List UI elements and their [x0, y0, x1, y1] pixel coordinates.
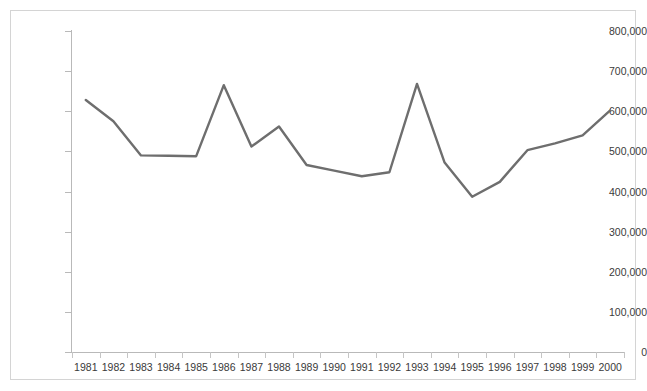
x-axis-tick	[265, 352, 266, 358]
x-axis-tick-label: 2000	[599, 362, 622, 373]
y-axis-tick	[65, 192, 72, 193]
y-axis-tick	[65, 151, 72, 152]
x-axis-tick-label: 1994	[433, 362, 456, 373]
x-axis-tick	[155, 352, 156, 358]
x-axis-tick-label: 1996	[488, 362, 511, 373]
x-axis-tick	[376, 352, 377, 358]
x-axis-tick	[514, 352, 515, 358]
x-axis-tick	[624, 352, 625, 358]
x-axis-tick-label: 1983	[129, 362, 152, 373]
x-axis-tick	[238, 352, 239, 358]
x-axis-tick	[182, 352, 183, 358]
y-axis-tick	[65, 71, 72, 72]
x-axis-tick-label: 1988	[267, 362, 290, 373]
x-axis-tick-label: 1998	[543, 362, 566, 373]
x-axis-tick-label: 1999	[571, 362, 594, 373]
x-axis-tick	[320, 352, 321, 358]
x-axis-tick-label: 1990	[323, 362, 346, 373]
y-axis-tick	[65, 232, 72, 233]
x-axis-tick-label: 1987	[240, 362, 263, 373]
x-axis-tick	[210, 352, 211, 358]
x-axis-tick	[431, 352, 432, 358]
y-axis-tick	[65, 111, 72, 112]
y-axis-tick	[65, 272, 72, 273]
x-axis-tick-label: 1993	[405, 362, 428, 373]
y-axis-tick-label: 300,000	[589, 227, 647, 238]
x-axis-tick-label: 1981	[74, 362, 97, 373]
x-axis-tick	[458, 352, 459, 358]
x-axis-tick-label: 1989	[295, 362, 318, 373]
x-axis-tick-label: 1995	[461, 362, 484, 373]
x-axis-tick	[100, 352, 101, 358]
x-axis-tick	[569, 352, 570, 358]
x-axis-tick	[293, 352, 294, 358]
chart-frame	[10, 10, 636, 380]
x-axis-tick-label: 1997	[516, 362, 539, 373]
y-axis-tick-label: 600,000	[589, 106, 647, 117]
y-axis-tick-label: 800,000	[589, 26, 647, 37]
x-axis-tick	[596, 352, 597, 358]
y-axis-tick-label: 400,000	[589, 187, 647, 198]
x-axis-tick-label: 1984	[157, 362, 180, 373]
y-axis-tick-label: 100,000	[589, 307, 647, 318]
x-axis-tick	[486, 352, 487, 358]
x-axis-tick-label: 1986	[212, 362, 235, 373]
x-axis-tick-label: 1992	[378, 362, 401, 373]
x-axis-tick	[72, 352, 73, 358]
x-axis-tick	[541, 352, 542, 358]
x-axis-tick-label: 1991	[350, 362, 373, 373]
y-axis-tick	[65, 31, 72, 32]
y-axis-tick-label: 500,000	[589, 146, 647, 157]
x-axis-tick	[403, 352, 404, 358]
y-axis-tick-label: 700,000	[589, 66, 647, 77]
x-axis-tick	[127, 352, 128, 358]
line-chart-figure: 0100,000200,000300,000400,000500,000600,…	[0, 0, 647, 391]
y-axis-tick	[65, 312, 72, 313]
x-axis-tick-label: 1982	[102, 362, 125, 373]
y-axis-tick	[65, 352, 72, 353]
y-axis-tick-label: 200,000	[589, 267, 647, 278]
x-axis-tick	[348, 352, 349, 358]
x-axis-tick-label: 1985	[185, 362, 208, 373]
y-axis-tick-label: 0	[589, 347, 647, 358]
